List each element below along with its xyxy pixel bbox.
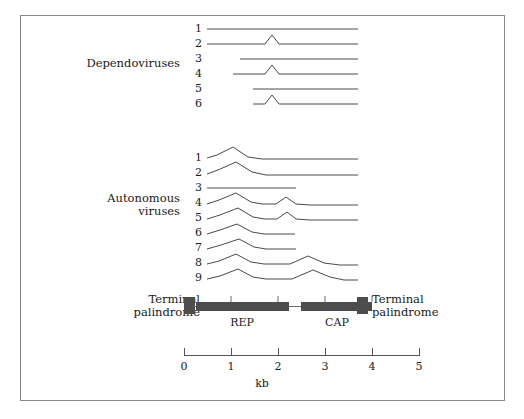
row-number-autonomous-8: 8 — [190, 257, 202, 268]
scale-tick-4 — [372, 348, 373, 356]
row-number-autonomous-3: 3 — [190, 182, 202, 193]
scale-tick-label-4: 4 — [364, 360, 380, 373]
scale-tick-label-5: 5 — [411, 360, 427, 373]
row-number-dependo-6: 6 — [190, 98, 202, 109]
scale-tick-2 — [278, 348, 279, 356]
row-number-autonomous-4: 4 — [190, 197, 202, 208]
row-number-autonomous-7: 7 — [190, 242, 202, 253]
scale-unit-label: kb — [0, 377, 524, 390]
terminal-palindrome-right-label: Terminal palindrome — [372, 293, 458, 319]
group-label-dependoviruses: Dependoviruses — [60, 57, 180, 70]
scale-tick-1 — [231, 348, 232, 356]
row-number-autonomous-2: 2 — [190, 167, 202, 178]
scale-tick-3 — [325, 348, 326, 356]
scale-tick-label-0: 0 — [176, 360, 192, 373]
row-number-dependo-4: 4 — [190, 68, 202, 79]
row-number-dependo-2: 2 — [190, 38, 202, 49]
scale-tick-0 — [184, 348, 185, 356]
orf-label-rep: REP — [202, 316, 282, 329]
row-number-dependo-5: 5 — [190, 83, 202, 94]
group-label-autonomous-viruses: Autonomous viruses — [60, 192, 180, 218]
row-number-autonomous-9: 9 — [190, 272, 202, 283]
row-number-autonomous-1: 1 — [190, 152, 202, 163]
row-number-dependo-1: 1 — [190, 23, 202, 34]
scale-tick-5 — [419, 348, 420, 356]
scale-tick-label-3: 3 — [317, 360, 333, 373]
row-number-dependo-3: 3 — [190, 53, 202, 64]
row-number-autonomous-6: 6 — [190, 227, 202, 238]
scale-axis-line — [184, 355, 420, 356]
scale-tick-label-2: 2 — [270, 360, 286, 373]
scale-tick-label-1: 1 — [223, 360, 239, 373]
orf-block-rep — [196, 302, 289, 311]
orf-label-cap: CAP — [297, 316, 377, 329]
figure-root: Dependoviruses Autonomous viruses 1 2 3 … — [0, 0, 524, 419]
terminal-palindrome-right-block — [357, 297, 368, 314]
row-number-autonomous-5: 5 — [190, 212, 202, 223]
